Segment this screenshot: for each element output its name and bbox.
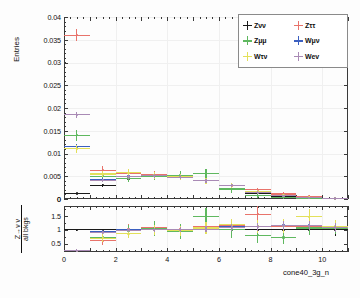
ratio-y-tick-label: 1 (30, 225, 61, 234)
x-tick-minor (96, 206, 97, 208)
y-tick-major (344, 85, 348, 86)
y-tick-minor (64, 209, 66, 210)
legend-item-Wmunu[interactable]: Wμν (294, 33, 345, 48)
x-tick-minor (122, 197, 123, 199)
x-tick-minor (187, 206, 188, 208)
x-tick-minor (212, 17, 213, 19)
x-tick-minor (122, 206, 123, 208)
x-tick-minor (174, 250, 175, 252)
x-tick-minor (122, 250, 123, 252)
x-tick-minor (342, 206, 343, 208)
x-tick-minor (103, 206, 104, 208)
x-tick-minor (77, 197, 78, 199)
x-tick-minor (225, 17, 226, 19)
x-tick-minor (316, 206, 317, 208)
legend-item-Wtaunu[interactable]: Wτν (243, 49, 294, 64)
x-tick-major (193, 17, 194, 21)
y-tick-minor (64, 181, 66, 182)
gridline-horizontal (65, 108, 347, 109)
y-tick-minor (64, 62, 66, 63)
x-tick-major (90, 17, 91, 21)
x-tick-minor (187, 17, 188, 19)
x-tick-minor (264, 197, 265, 199)
x-tick-label: 0 (54, 255, 74, 264)
x-tick-major (116, 206, 117, 210)
x-tick-minor (174, 197, 175, 199)
x-tick-minor (212, 206, 213, 208)
ratio-y-tick-label: 1.5 (30, 212, 61, 221)
y-tick-major (344, 199, 348, 200)
y-tick-minor (64, 176, 66, 177)
y-tick-minor (64, 72, 66, 73)
x-tick-major (193, 206, 194, 210)
x-tick-minor (109, 206, 110, 208)
x-tick-major (90, 248, 91, 252)
y-tick-minor (64, 117, 66, 118)
x-tick-major (348, 248, 349, 252)
ratio-label-numerator: Z→ν ν (14, 205, 21, 253)
x-tick-minor (277, 206, 278, 208)
x-tick-minor (212, 250, 213, 252)
legend-item-label: Wτν (254, 53, 267, 60)
y-tick-minor (64, 49, 66, 50)
y-tick-minor (64, 67, 66, 68)
y-tick-minor (64, 185, 66, 186)
x-tick-minor (103, 250, 104, 252)
marker (282, 236, 284, 238)
x-tick-label: 10 (312, 255, 332, 264)
legend-marker-icon (243, 21, 252, 30)
x-tick-major (348, 195, 349, 199)
x-tick-major (167, 195, 168, 199)
legend-item-Ztautau[interactable]: Zττ (294, 18, 345, 33)
x-tick-minor (264, 206, 265, 208)
x-tick-major (90, 206, 91, 210)
x-tick-minor (251, 197, 252, 199)
x-tick-minor (225, 250, 226, 252)
x-tick-major (193, 195, 194, 199)
y-tick-minor (64, 163, 66, 164)
x-tick-minor (180, 250, 181, 252)
x-tick-major (271, 248, 272, 252)
x-axis-title: cone40_3g_n (283, 268, 329, 277)
y-tick-minor (64, 53, 66, 54)
y-tick-major (344, 108, 348, 109)
x-tick-major (141, 17, 142, 21)
x-tick-minor (232, 206, 233, 208)
marker (205, 172, 207, 174)
x-tick-minor (180, 206, 181, 208)
y-tick-label: 0.01 (18, 149, 61, 158)
legend: ZννZττZμμWμνWτνWev (238, 14, 348, 68)
x-tick-minor (96, 17, 97, 19)
legend-item-Zmumu[interactable]: Zμμ (243, 33, 294, 48)
legend-item-label: Zμμ (254, 37, 267, 44)
x-tick-minor (148, 197, 149, 199)
marker (76, 250, 78, 252)
x-tick-minor (316, 250, 317, 252)
x-tick-minor (200, 17, 201, 19)
x-tick-minor (154, 17, 155, 19)
y-tick-minor (64, 85, 66, 86)
x-tick-minor (187, 250, 188, 252)
x-tick-major (296, 206, 297, 210)
y-tick-major (344, 131, 348, 132)
marker (257, 195, 259, 197)
y-tick-label: 0.03 (18, 58, 61, 67)
y-tick-minor (64, 22, 66, 23)
legend-item-label: Wμν (305, 37, 319, 44)
y-tick-label: 0.025 (18, 81, 61, 90)
x-tick-minor (129, 17, 130, 19)
x-tick-major (245, 206, 246, 210)
marker (127, 176, 129, 178)
y-tick-label: 0.04 (18, 13, 61, 22)
x-tick-minor (109, 250, 110, 252)
legend-item-Znunu[interactable]: Zνν (243, 18, 294, 33)
x-tick-minor (258, 250, 259, 252)
x-tick-major (167, 17, 168, 21)
x-tick-major (322, 248, 323, 252)
x-tick-minor (290, 250, 291, 252)
legend-item-Wenu[interactable]: Wev (294, 49, 345, 64)
x-tick-minor (238, 206, 239, 208)
marker (282, 195, 284, 197)
marker (257, 213, 259, 215)
x-tick-label: 4 (157, 255, 177, 264)
